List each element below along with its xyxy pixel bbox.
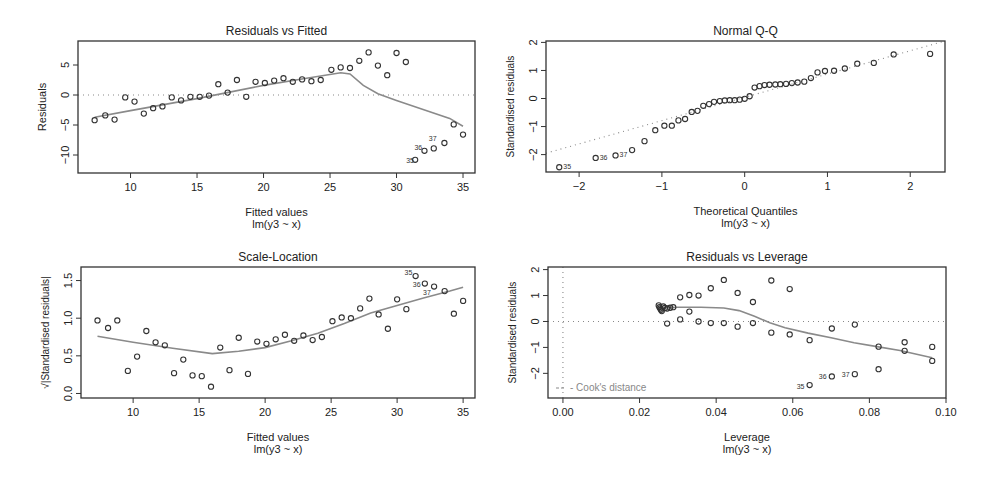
data-point: [319, 334, 324, 339]
data-point: [829, 374, 834, 379]
data-point: [808, 75, 813, 80]
plot-frame: [546, 41, 945, 172]
data-point: [347, 65, 352, 70]
x-tick-label: 35: [457, 406, 469, 418]
y-tick-label: 1.5: [62, 273, 74, 288]
data-point: [676, 118, 681, 123]
data-point: [789, 80, 794, 85]
data-point: [752, 85, 757, 90]
data-point: [750, 320, 755, 325]
data-point: [678, 317, 683, 322]
data-point: [422, 281, 427, 286]
x-tick-label: 1: [824, 180, 830, 192]
data-point: [125, 368, 130, 373]
data-point: [557, 165, 562, 170]
data-point: [682, 116, 687, 121]
y-tick-label: 0.5: [62, 348, 74, 363]
data-point: [357, 58, 362, 63]
x-tick-label: 25: [325, 406, 337, 418]
data-point: [188, 94, 193, 99]
x-tick-label: 15: [193, 406, 205, 418]
data-point: [338, 65, 343, 70]
data-point: [593, 155, 598, 160]
x-tick-label: 0.04: [705, 406, 726, 418]
data-point: [281, 76, 286, 81]
data-points: [557, 51, 933, 170]
data-point: [815, 70, 820, 75]
panel-scale-location: Scale-Location3536371015202530350.00.51.…: [40, 250, 475, 455]
data-point: [132, 99, 137, 104]
data-point: [403, 59, 408, 64]
y-axis-label: Standardised residuals: [505, 56, 516, 158]
x-axis-label: Leverage: [724, 431, 770, 443]
data-point: [735, 290, 740, 295]
y-axis-label: Residuals: [36, 82, 48, 131]
data-point: [255, 339, 260, 344]
point-label: 35: [406, 157, 414, 164]
data-point: [95, 318, 100, 323]
data-point: [144, 328, 149, 333]
data-point: [367, 296, 372, 301]
data-points: [92, 50, 466, 163]
x-tick-label: 15: [191, 181, 203, 193]
point-label: 35: [797, 383, 805, 390]
data-point: [678, 295, 683, 300]
point-label: 36: [413, 281, 421, 288]
point-label: 35: [405, 269, 413, 276]
point-label: 36: [819, 373, 827, 380]
data-point: [431, 146, 436, 151]
model-formula-label: lm(y3 ~ x): [721, 217, 770, 229]
data-point: [927, 51, 932, 56]
data-point: [199, 374, 204, 379]
data-point: [309, 79, 314, 84]
x-axis-label: Theoretical Quantiles: [694, 205, 798, 217]
chart-title: Residuals vs Leverage: [686, 250, 808, 264]
x-tick-label: 0.10: [935, 406, 956, 418]
data-point: [783, 81, 788, 86]
y-tick-label: 0: [59, 92, 71, 98]
data-point: [742, 96, 747, 101]
data-point: [930, 344, 935, 349]
chart-title: Scale-Location: [238, 250, 317, 264]
data-point: [169, 95, 174, 100]
point-label: 37: [423, 289, 431, 296]
data-point: [852, 322, 857, 327]
data-point: [902, 340, 907, 345]
data-point: [123, 95, 128, 100]
data-point: [757, 84, 762, 89]
data-point: [236, 335, 241, 340]
y-tick-label: −1: [529, 341, 541, 354]
data-point: [696, 293, 701, 298]
point-label: 36: [600, 154, 608, 161]
x-tick-label: 0.02: [629, 406, 650, 418]
x-tick-label: 20: [257, 181, 269, 193]
data-point: [244, 94, 249, 99]
y-axis-label: √|Standardised residuals|: [40, 276, 51, 388]
data-point: [689, 109, 694, 114]
data-point: [687, 292, 692, 297]
data-point: [613, 153, 618, 158]
y-axis-label: Standardised residuals: [507, 282, 518, 384]
data-point: [358, 306, 363, 311]
x-axis-label: Fitted values: [247, 431, 310, 443]
x-tick-label: 2: [907, 180, 913, 192]
data-point: [112, 117, 117, 122]
data-point: [404, 307, 409, 312]
data-point: [802, 79, 807, 84]
data-point: [171, 371, 176, 376]
data-point: [721, 277, 726, 282]
data-point: [190, 373, 195, 378]
x-tick-label: 20: [259, 406, 271, 418]
data-point: [735, 324, 740, 329]
y-tick-label: 1.0: [62, 311, 74, 326]
data-point: [318, 77, 323, 82]
data-point: [375, 63, 380, 68]
diagnostic-plots-figure: Residuals vs Fitted35363710152025303550−…: [0, 0, 985, 478]
data-point: [778, 82, 783, 87]
data-point: [234, 77, 239, 82]
data-point: [762, 82, 767, 87]
data-point: [687, 309, 692, 314]
data-point: [831, 68, 836, 73]
data-points: [656, 277, 935, 387]
data-point: [105, 325, 110, 330]
